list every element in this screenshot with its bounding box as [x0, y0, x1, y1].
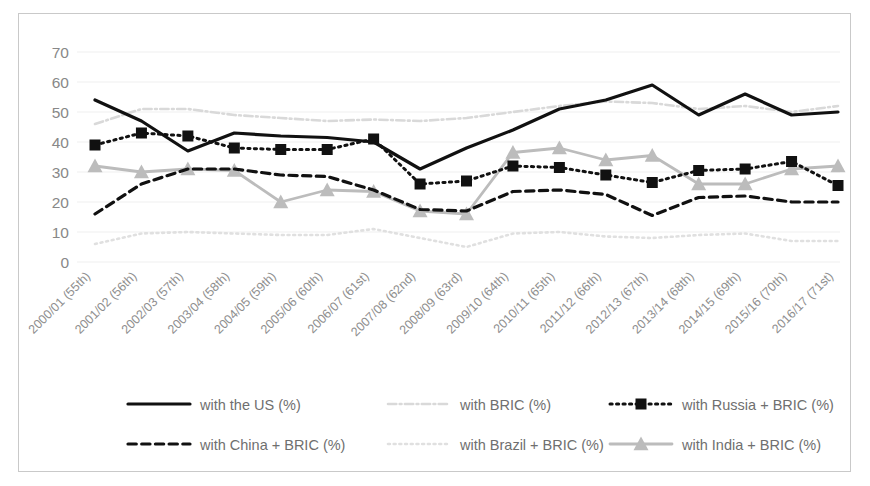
line-chart: 010203040506070 2000/01 (55th)2001/02 (5…: [0, 0, 870, 486]
legend-item[interactable]: with India + BRIC (%): [610, 437, 821, 453]
y-axis-tick-label: 0: [60, 254, 69, 271]
data-point-marker-square: [182, 131, 193, 142]
data-point-marker-square: [647, 177, 658, 188]
data-point-marker-square: [600, 170, 611, 181]
data-point-marker-square: [136, 128, 147, 139]
legend-item-label: with India + BRIC (%): [681, 437, 821, 453]
data-point-marker-square: [507, 161, 518, 172]
data-point-marker-square: [833, 180, 844, 191]
data-point-marker-square: [415, 179, 426, 190]
data-point-marker-square: [786, 156, 797, 167]
legend-item[interactable]: with Brazil + BRIC (%): [388, 437, 604, 453]
data-point-marker-square: [461, 176, 472, 187]
chart-container: 010203040506070 2000/01 (55th)2001/02 (5…: [0, 0, 870, 486]
legend-item-label: with China + BRIC (%): [199, 437, 345, 453]
chart-legend: with the US (%)with BRIC (%)with Russia …: [128, 397, 834, 453]
y-axis-tick-label: 30: [52, 164, 70, 181]
data-point-marker-square: [636, 399, 647, 410]
y-axis-tick-label: 60: [52, 74, 70, 91]
x-axis-tick-labels: 2000/01 (55th)2001/02 (56th)2002/03 (57t…: [26, 269, 836, 339]
grid-lines: [77, 52, 840, 262]
series-with-bric: [95, 102, 838, 125]
legend-item-label: with BRIC (%): [459, 397, 551, 413]
legend-item[interactable]: with Russia + BRIC (%): [610, 397, 834, 413]
y-axis-tick-labels: 010203040506070: [52, 44, 70, 271]
y-axis-tick-label: 40: [52, 134, 70, 151]
data-point-marker-square: [322, 144, 333, 155]
series-line: [95, 85, 838, 169]
data-point-marker-square: [90, 140, 101, 151]
y-axis-tick-label: 20: [52, 194, 70, 211]
legend-item[interactable]: with China + BRIC (%): [128, 437, 345, 453]
legend-item-label: with Brazil + BRIC (%): [459, 437, 604, 453]
legend-item-label: with Russia + BRIC (%): [681, 397, 834, 413]
data-point-marker-square: [554, 162, 565, 173]
data-point-marker-square: [693, 165, 704, 176]
data-point-marker-square: [740, 164, 751, 175]
series-with-russia-bric: [90, 128, 844, 192]
y-axis-tick-label: 50: [52, 104, 70, 121]
series-line: [95, 102, 838, 125]
y-axis-tick-label: 10: [52, 224, 70, 241]
y-axis-tick-label: 70: [52, 44, 70, 61]
data-point-marker-square: [275, 144, 286, 155]
data-point-marker-square: [229, 143, 240, 154]
series-with-the-us: [95, 85, 838, 169]
legend-item-label: with the US (%): [199, 397, 301, 413]
legend-item[interactable]: with BRIC (%): [388, 397, 551, 413]
legend-item[interactable]: with the US (%): [128, 397, 301, 413]
data-series-group: [88, 85, 846, 247]
